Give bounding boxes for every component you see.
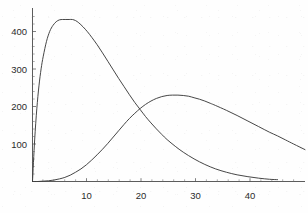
axis-group [32,8,305,182]
data-curve-2 [33,95,306,181]
y-tick-label-200: 200 [11,101,27,112]
chart-figure: 10 20 30 40 100 200 300 400 [0,0,308,213]
x-tick-label-30: 30 [190,190,201,201]
y-tick-label-300: 300 [11,64,27,75]
x-tick-label-20: 20 [136,190,147,201]
x-tick-label-40: 40 [245,190,256,201]
x-tick-label-10: 10 [81,190,92,201]
data-curve-1 [33,19,278,181]
plot-area: 10 20 30 40 100 200 300 400 [0,0,308,213]
y-tick-label-400: 400 [11,26,27,37]
y-tick-label-100: 100 [11,139,27,150]
x-major-ticks [87,178,251,181]
